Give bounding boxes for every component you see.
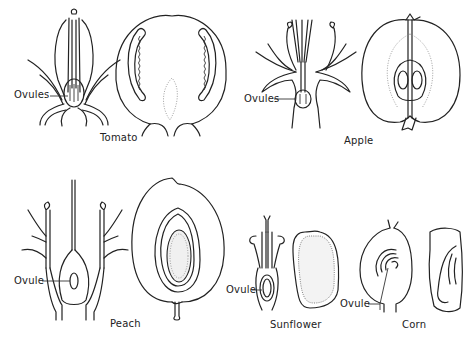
tomato-ovules-label: Ovules [14, 89, 49, 100]
apple-caption: Apple [344, 135, 373, 146]
peach-flower-drawing [22, 180, 128, 320]
sunflower-seed-drawing [293, 231, 339, 308]
tomato-flower-drawing [28, 9, 120, 126]
peach-caption: Peach [110, 318, 141, 329]
sunflower-floret-drawing [250, 216, 285, 310]
sunflower-ovule-label: Ovule [226, 284, 256, 295]
corn-kernel-drawing [429, 228, 462, 311]
tomato-caption: Tomato [100, 132, 138, 143]
fruit-ovule-diagram: Ovules Tomato Ovules Apple Ovule Peach O… [0, 0, 474, 346]
apple-flower-drawing [256, 20, 356, 128]
sunflower-caption: Sunflower [270, 319, 322, 330]
corn-caption: Corn [402, 319, 426, 330]
tomato-fruit-drawing [116, 15, 226, 136]
peach-fruit-drawing [132, 178, 224, 320]
peach-ovule-label: Ovule [14, 275, 44, 286]
apple-fruit-drawing [362, 14, 460, 130]
apple-ovules-label: Ovules [244, 93, 279, 104]
corn-ovule-label: Ovule [340, 298, 370, 309]
